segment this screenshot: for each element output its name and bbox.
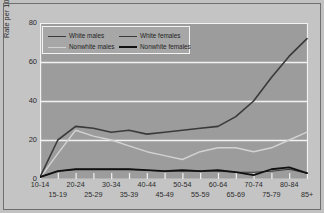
x-tick-label: 80-84 [280,181,298,188]
x-tick-label: 75-79 [262,191,280,198]
chart-legend: White malesWhite femalesNonwhite malesNo… [42,26,190,54]
legend-item-label: White females [140,33,181,39]
x-tick-label: 65-69 [227,191,245,198]
legend-item-label: Nonwhite males [69,44,114,50]
x-tick-label: 50-54 [173,181,191,188]
series-line [40,167,307,177]
y-tick-label: 20 [7,136,37,144]
x-tick-label: 10-14 [31,181,49,188]
legend-item-label: White males [69,33,104,39]
y-tick-label: 60 [7,58,37,66]
y-axis-ticks: 020406080 [4,23,37,179]
x-tick-label: 25-29 [84,191,102,198]
x-tick-label: 45-49 [155,191,173,198]
y-tick-label: 40 [7,97,37,105]
x-tick-label: 70-74 [244,181,262,188]
legend-item: White females [119,31,181,41]
x-tick-label: 55-59 [191,191,209,198]
legend-line-swatch [48,36,66,37]
legend-line-swatch [119,36,137,37]
y-tick-label: 80 [7,19,37,27]
legend-item: White males [48,31,104,41]
legend-item: Nonwhite males [48,42,114,52]
x-tick-label: 35-39 [120,191,138,198]
figure-frame: Rate per 100,000 Population 020406080 10… [3,3,321,210]
x-axis-ticks: 10-1415-1920-2425-2930-3435-3940-4445-49… [40,180,308,206]
x-tick-label: 85+ [301,191,313,198]
x-tick-label: 40-44 [138,181,156,188]
legend-item-label: Nonwhite females [140,44,191,50]
legend-line-swatch [119,46,137,48]
chart-figure: Rate per 100,000 Population 020406080 10… [0,0,324,213]
legend-item: Nonwhite females [119,42,191,52]
x-tick-label: 15-19 [49,191,67,198]
x-tick-label: 20-24 [66,181,84,188]
x-tick-label: 30-34 [102,181,120,188]
series-line [40,39,307,177]
legend-line-swatch [48,47,66,48]
x-tick-label: 60-64 [209,181,227,188]
